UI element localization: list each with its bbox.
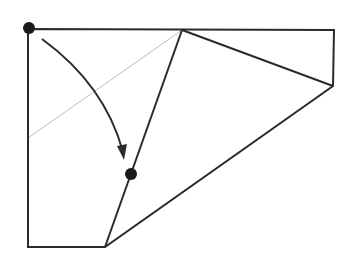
crease-top-to-bottom	[105, 30, 182, 247]
folding-diagram	[0, 0, 353, 268]
paper-outline	[28, 29, 334, 247]
target-dot	[125, 168, 137, 180]
arrowhead-icon	[117, 144, 127, 160]
crease-top-to-right	[182, 30, 333, 86]
fold-arrow	[42, 39, 123, 152]
corner-dot	[23, 22, 35, 34]
